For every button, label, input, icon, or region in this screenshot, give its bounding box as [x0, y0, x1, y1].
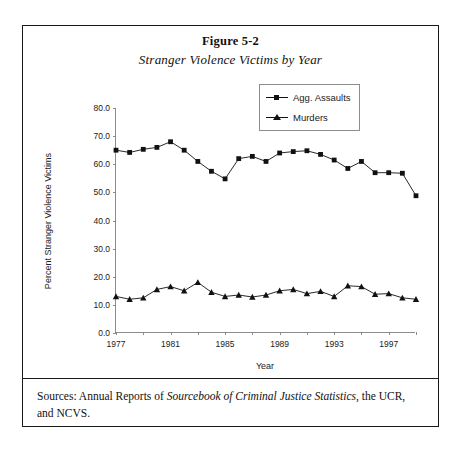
data-point-square — [168, 139, 173, 144]
y-axis-tick-mark — [113, 136, 116, 137]
data-point-square — [236, 156, 241, 161]
sources-divider — [23, 378, 438, 379]
series-line-agg-assaults — [116, 142, 416, 196]
plot-region: 0.010.020.030.040.050.060.070.080.019771… — [115, 108, 415, 333]
figure-number: Figure 5-2 — [23, 34, 438, 49]
data-point-square — [291, 149, 296, 154]
x-axis-tick-mark — [334, 332, 335, 335]
x-axis-tick-label: 1989 — [270, 339, 289, 349]
title-block: Figure 5-2 Stranger Violence Victims by … — [23, 34, 438, 68]
data-point-square — [127, 150, 132, 155]
series-canvas — [116, 108, 416, 333]
y-axis-tick-mark — [113, 108, 116, 109]
data-point-triangle — [208, 289, 214, 295]
x-axis-tick-label: 1993 — [325, 339, 344, 349]
y-axis-tick-label: 30.0 — [93, 244, 110, 254]
x-axis-tick-label: 1977 — [107, 339, 126, 349]
x-axis-tick-mark — [171, 332, 172, 335]
x-axis-tick-mark — [280, 332, 281, 335]
data-point-square — [195, 159, 200, 164]
data-point-triangle — [195, 279, 201, 285]
legend-item-murders: Murders — [266, 110, 351, 125]
data-point-square — [386, 170, 391, 175]
data-point-square — [114, 148, 119, 153]
data-point-square — [182, 148, 187, 153]
y-axis-title: Percent Stranger Violence Victims — [41, 108, 55, 333]
sources-note: Sources: Annual Reports of Sourcebook of… — [37, 388, 424, 421]
data-point-triangle — [236, 292, 242, 298]
data-point-square — [277, 151, 282, 156]
x-axis-title: Year — [115, 361, 415, 371]
y-axis-tick-label: 70.0 — [93, 131, 110, 141]
x-axis-tick-mark — [116, 332, 117, 335]
y-axis-tick-label: 20.0 — [93, 272, 110, 282]
x-axis-tick-mark — [416, 332, 417, 335]
data-point-triangle — [317, 288, 323, 294]
square-marker-icon — [266, 93, 288, 102]
triangle-marker-icon — [266, 113, 288, 122]
y-axis-tick-label: 50.0 — [93, 187, 110, 197]
x-axis-tick-label: 1981 — [161, 339, 180, 349]
y-axis-tick-mark — [113, 305, 116, 306]
data-point-square — [359, 159, 364, 164]
y-axis-tick-label: 0.0 — [98, 328, 110, 338]
data-point-square — [141, 147, 146, 152]
data-point-square — [345, 166, 350, 171]
y-axis-tick-mark — [113, 221, 116, 222]
x-axis-tick-mark — [225, 332, 226, 335]
data-point-square — [400, 171, 405, 176]
data-point-square — [264, 159, 269, 164]
data-point-triangle — [140, 295, 146, 301]
data-point-square — [414, 193, 419, 198]
x-axis-tick-label: 1997 — [379, 339, 398, 349]
data-point-square — [332, 158, 337, 163]
data-point-square — [223, 176, 228, 181]
x-axis-tick-mark — [252, 332, 253, 335]
data-point-square — [250, 154, 255, 159]
x-axis-tick-label: 1985 — [216, 339, 235, 349]
y-axis-tick-label: 60.0 — [93, 159, 110, 169]
legend-label-murders: Murders — [293, 112, 328, 123]
data-point-triangle — [290, 286, 296, 292]
data-point-triangle — [113, 293, 119, 299]
data-point-square — [209, 169, 214, 174]
data-point-square — [155, 145, 160, 150]
legend-label-agg-assaults: Agg. Assaults — [293, 92, 351, 103]
y-axis-title-text: Percent Stranger Violence Victims — [43, 152, 53, 288]
y-axis-tick-mark — [113, 164, 116, 165]
y-axis-tick-mark — [113, 192, 116, 193]
y-axis-tick-label: 80.0 — [93, 103, 110, 113]
x-axis-tick-mark — [389, 332, 390, 335]
chart-area: Percent Stranger Violence Victims 0.010.… — [23, 78, 440, 378]
data-point-square — [305, 148, 310, 153]
y-axis-tick-label: 40.0 — [93, 216, 110, 226]
x-axis-tick-mark — [307, 332, 308, 335]
y-axis-tick-mark — [113, 277, 116, 278]
figure-subtitle: Stranger Violence Victims by Year — [23, 52, 438, 68]
data-point-square — [318, 152, 323, 157]
sources-prefix: Sources: Annual Reports of — [37, 390, 167, 402]
x-axis-tick-mark — [361, 332, 362, 335]
figure-page: Figure 5-2 Stranger Violence Victims by … — [0, 0, 463, 449]
chart-legend: Agg. Assaults Murders — [259, 84, 360, 131]
x-axis-tick-mark — [198, 332, 199, 335]
sources-italic-title: Sourcebook of Criminal Justice Statistic… — [167, 390, 356, 402]
y-axis-tick-mark — [113, 249, 116, 250]
x-axis-tick-mark — [143, 332, 144, 335]
figure-container: Figure 5-2 Stranger Violence Victims by … — [22, 25, 439, 427]
y-axis-tick-label: 10.0 — [93, 300, 110, 310]
legend-item-agg-assaults: Agg. Assaults — [266, 90, 351, 105]
data-point-triangle — [167, 283, 173, 289]
data-point-square — [373, 170, 378, 175]
